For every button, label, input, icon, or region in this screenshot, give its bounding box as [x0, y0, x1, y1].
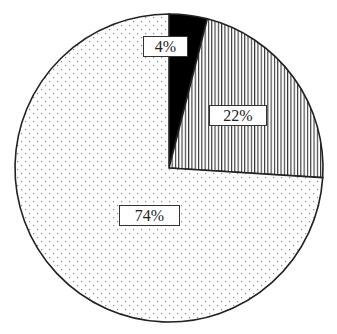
slice-label-74-percent: 74%: [119, 205, 180, 226]
slice-label-4-percent: 4%: [143, 36, 188, 57]
slice-label-text: 74%: [135, 208, 164, 224]
slice-label-text: 22%: [223, 108, 252, 124]
slice-label-22-percent: 22%: [209, 105, 267, 126]
slice-label-text: 4%: [155, 39, 176, 55]
